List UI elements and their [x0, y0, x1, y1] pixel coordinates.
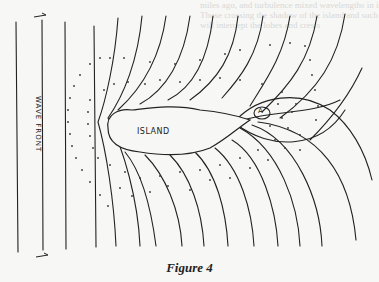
wave-line — [125, 152, 156, 246]
wave-line — [236, 110, 345, 142]
wave-line — [170, 155, 204, 246]
arrow-bottom-icon — [36, 253, 48, 257]
wave-line — [94, 26, 96, 247]
wave-refraction-diagram — [0, 0, 379, 282]
island-shape — [108, 107, 250, 155]
figure-caption: Figure 4 — [0, 260, 379, 276]
wave-front-label: WAVE FRONT — [34, 96, 42, 152]
wave-line — [195, 152, 228, 246]
wave-line — [250, 16, 290, 106]
wave-line — [215, 148, 254, 246]
wave-line — [140, 16, 190, 104]
wave-line — [145, 155, 182, 246]
wave-line — [240, 128, 300, 246]
wave-line — [42, 20, 43, 250]
wave-line — [168, 16, 213, 100]
arrow-top-icon — [34, 13, 46, 17]
wave-line — [118, 16, 166, 110]
point-a-label: A — [258, 107, 263, 115]
wave-line — [310, 68, 362, 140]
wave-line — [222, 16, 263, 98]
wave-line — [16, 22, 18, 252]
island-label: ISLAND — [137, 127, 170, 136]
wave-line — [65, 22, 66, 249]
